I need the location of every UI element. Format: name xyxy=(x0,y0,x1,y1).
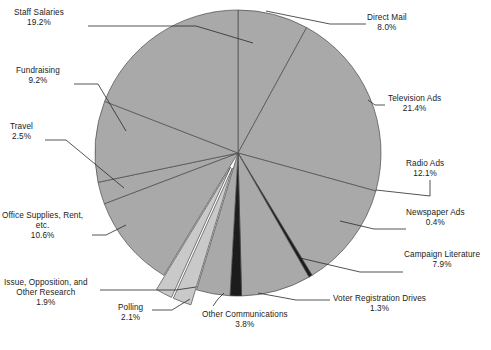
label-polling: Polling 2.1% xyxy=(118,303,143,323)
label-polling-pct: 2.1% xyxy=(118,313,143,323)
label-office-supplies: Office Supplies, Rent, etc. 10.6% xyxy=(2,211,83,242)
label-television-ads: Television Ads 21.4% xyxy=(388,94,441,114)
label-issue-research-pct: 1.9% xyxy=(4,298,88,308)
label-radio-ads-name: Radio Ads xyxy=(406,159,444,169)
label-staff-salaries-name: Staff Salaries xyxy=(14,8,64,18)
label-office-supplies-name-line1: Office Supplies, Rent, xyxy=(2,211,83,221)
label-issue-research: Issue, Opposition, and Other Research 1.… xyxy=(4,278,88,309)
label-newspaper-ads-name: Newspaper Ads xyxy=(406,208,465,218)
label-office-supplies-pct: 10.6% xyxy=(2,231,83,241)
label-fundraising-name: Fundraising xyxy=(16,66,60,76)
label-radio-ads: Radio Ads 12.1% xyxy=(406,159,444,179)
label-issue-research-name-line2: Other Research xyxy=(4,288,88,298)
label-other-communications-pct: 3.8% xyxy=(202,320,288,330)
label-office-supplies-name-line2: etc. xyxy=(2,221,83,231)
label-newspaper-ads-pct: 0.4% xyxy=(406,218,465,228)
label-staff-salaries: Staff Salaries 19.2% xyxy=(14,8,64,28)
label-television-ads-pct: 21.4% xyxy=(388,104,441,114)
label-direct-mail-name: Direct Mail xyxy=(367,13,407,23)
label-campaign-literature-name: Campaign Literature xyxy=(404,250,480,260)
label-voter-registration-drives-pct: 1.3% xyxy=(333,304,426,314)
label-campaign-literature: Campaign Literature 7.9% xyxy=(404,250,480,270)
label-television-ads-name: Television Ads xyxy=(388,94,441,104)
label-issue-research-name-line1: Issue, Opposition, and xyxy=(4,278,88,288)
label-campaign-literature-pct: 7.9% xyxy=(404,260,480,270)
label-newspaper-ads: Newspaper Ads 0.4% xyxy=(406,208,465,228)
label-fundraising-pct: 9.2% xyxy=(16,76,60,86)
label-polling-name: Polling xyxy=(118,303,143,313)
label-other-communications: Other Communications 3.8% xyxy=(202,310,288,330)
label-travel-pct: 2.5% xyxy=(10,132,33,142)
label-travel-name: Travel xyxy=(10,122,33,132)
label-fundraising: Fundraising 9.2% xyxy=(16,66,60,86)
label-travel: Travel 2.5% xyxy=(10,122,33,142)
leader-line-radio-ads xyxy=(376,180,430,196)
label-radio-ads-pct: 12.1% xyxy=(406,169,444,179)
label-direct-mail-pct: 8.0% xyxy=(367,23,407,33)
label-staff-salaries-pct: 19.2% xyxy=(14,18,64,28)
pie-chart-figure: Staff Salaries 19.2% Fundraising 9.2% Tr… xyxy=(0,0,491,350)
leader-line-voter-reg xyxy=(258,293,330,300)
figure-caption xyxy=(8,343,308,350)
label-other-communications-name: Other Communications xyxy=(202,310,288,320)
pie-slice-layer xyxy=(95,10,381,305)
label-voter-registration-drives-name: Voter Registration Drives xyxy=(333,294,426,304)
label-voter-registration-drives: Voter Registration Drives 1.3% xyxy=(333,294,426,314)
label-direct-mail: Direct Mail 8.0% xyxy=(367,13,407,33)
